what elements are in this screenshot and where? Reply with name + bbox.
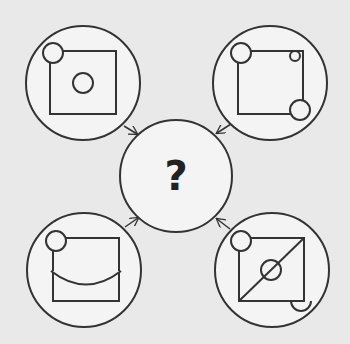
panel-bottom-right <box>215 213 329 327</box>
puzzle-diagram: ? <box>0 0 350 344</box>
arrow-top-right <box>217 124 231 133</box>
arrow-bottom-right <box>217 219 230 229</box>
panel-top-right <box>213 26 327 140</box>
panel-top-left <box>26 26 140 140</box>
panel-bottom-left <box>27 213 141 327</box>
question-mark: ? <box>146 146 206 206</box>
arrow-top-left <box>124 126 137 134</box>
arrow-bottom-left <box>125 218 138 227</box>
